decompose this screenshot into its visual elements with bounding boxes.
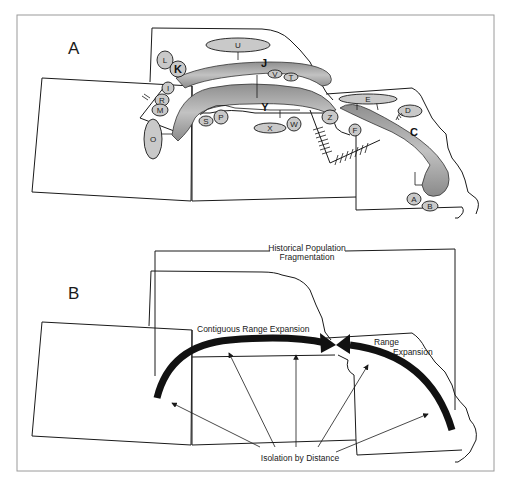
range-j-label: J	[261, 57, 267, 69]
fragmentation-bracket-right	[345, 249, 455, 410]
svg-text:F: F	[353, 126, 358, 135]
pop-w: W	[287, 117, 301, 131]
svg-text:L: L	[163, 56, 168, 65]
svg-text:U: U	[235, 41, 241, 50]
pop-o: O	[144, 119, 162, 159]
fragmentation-bracket-left	[155, 251, 270, 376]
svg-text:M: M	[157, 106, 164, 115]
pop-v: V	[268, 70, 282, 79]
svg-text:R: R	[159, 96, 165, 105]
svg-text:O: O	[150, 135, 156, 144]
svg-text:I: I	[167, 84, 169, 93]
panel-b: B Historical Population Fragmentation Co…	[32, 243, 476, 463]
isolation-label: Isolation by Distance	[261, 453, 340, 463]
range-label-2: Expansion	[393, 347, 433, 357]
pop-b: B	[422, 201, 438, 211]
svg-text:Z: Z	[328, 113, 333, 122]
pop-e: E	[339, 94, 397, 104]
range-c-label: C	[410, 126, 418, 138]
svg-text:P: P	[218, 113, 223, 122]
pop-i: I	[162, 82, 174, 94]
figure: A	[0, 0, 506, 488]
fragmentation-label-2: Fragmentation	[280, 252, 335, 262]
pop-a: A	[407, 193, 421, 205]
pop-u: U	[206, 38, 270, 52]
svg-text:A: A	[411, 195, 417, 204]
pop-f: F	[349, 124, 361, 136]
range-label-1: Range	[374, 337, 399, 347]
svg-text:X: X	[267, 124, 273, 133]
svg-text:S: S	[203, 117, 208, 126]
svg-text:K: K	[174, 63, 182, 75]
isolation-arrows	[172, 353, 428, 452]
pop-p: P	[214, 110, 228, 124]
wyoming-outline-b	[32, 322, 192, 445]
panel-a-label: A	[68, 39, 80, 58]
pop-d: D	[398, 105, 422, 117]
contiguous-label: Contiguous Range Expansion	[197, 324, 310, 334]
svg-text:B: B	[427, 202, 432, 211]
svg-text:D: D	[405, 106, 411, 115]
contiguous-expansion-arc	[157, 338, 326, 398]
figure-frame	[17, 15, 494, 471]
pop-s: S	[199, 116, 213, 126]
range-y-label: Y	[261, 101, 269, 113]
panel-b-label: B	[68, 284, 79, 303]
svg-text:V: V	[272, 70, 278, 79]
hatch-marks-wy	[142, 94, 150, 100]
state-outlines-a	[32, 28, 478, 218]
pop-z: Z	[322, 110, 338, 124]
pop-x: X	[254, 123, 286, 133]
pop-t: T	[284, 73, 298, 82]
svg-text:W: W	[290, 120, 298, 129]
pop-k: K	[170, 61, 186, 77]
panel-a: A	[32, 28, 478, 218]
pop-m: M	[152, 104, 168, 116]
svg-text:T: T	[289, 73, 294, 82]
svg-text:E: E	[365, 95, 370, 104]
range-expansion-arc	[350, 345, 452, 430]
